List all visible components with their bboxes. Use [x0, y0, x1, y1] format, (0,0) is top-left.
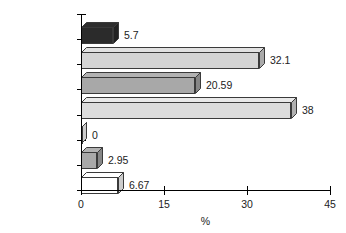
x-axis-line — [81, 190, 331, 191]
x-axis-tick-label: 0 — [61, 198, 101, 210]
plot-area: 5.732.120.593802.956.670153045 — [0, 0, 346, 233]
bar-value-label: 38 — [302, 104, 314, 116]
bar-side-face — [195, 72, 201, 94]
bar-klavan[interactable] — [81, 147, 104, 170]
bar-front-face — [81, 177, 118, 194]
x-axis-tick-label: 15 — [144, 198, 184, 210]
bar-side-face — [97, 147, 103, 169]
bar-side-face — [259, 47, 265, 69]
bar-value-label: 32.1 — [270, 54, 290, 66]
y-axis-line — [81, 14, 82, 191]
bar-front-face — [81, 102, 291, 119]
bar-bergenholtz[interactable] — [81, 172, 125, 195]
bar-front-face — [81, 27, 113, 44]
bar-chart: CarnevaleBuhlerErpensteinLangerHampKlava… — [0, 0, 346, 233]
bar-hamp[interactable] — [81, 122, 88, 145]
bar-carnevale[interactable] — [81, 22, 120, 45]
bar-value-label: 0 — [92, 129, 98, 141]
bar-front-face — [81, 152, 97, 169]
bar-value-label: 2.95 — [108, 154, 128, 166]
bar-front-face — [81, 52, 259, 69]
x-axis-tick-label: 45 — [310, 198, 346, 210]
bar-value-label: 20.59 — [206, 79, 232, 91]
bar-side-face — [113, 22, 119, 44]
bar-front-face — [81, 77, 195, 94]
x-axis-title: % — [61, 215, 346, 227]
bar-value-label: 5.7 — [124, 29, 139, 41]
bar-buhler[interactable] — [81, 47, 266, 70]
bar-erpenstein[interactable] — [81, 72, 202, 95]
x-axis-tick-label: 30 — [227, 198, 267, 210]
bar-langer[interactable] — [81, 97, 298, 120]
bar-side-face — [291, 97, 297, 119]
